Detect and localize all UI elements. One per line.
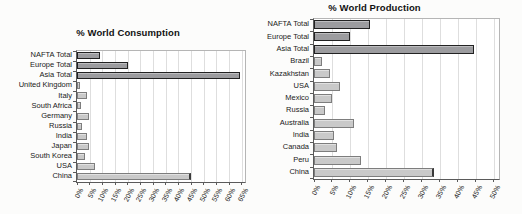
x-tick-label: 10% xyxy=(97,187,110,203)
category-label: Japan xyxy=(52,142,72,150)
x-tick-label: 10% xyxy=(344,184,357,200)
bar-south-korea xyxy=(77,153,85,160)
x-tick-label: 50% xyxy=(198,187,211,203)
category-axis-tick xyxy=(310,105,314,106)
category-row-asia-total: Asia Total xyxy=(0,70,72,80)
bar-russia xyxy=(77,123,82,130)
x-tick-label: 35% xyxy=(160,187,173,203)
gridline xyxy=(476,19,477,179)
x-tick-label: 55% xyxy=(211,187,224,203)
category-row-brazil: Brazil xyxy=(261,55,309,67)
category-label: Italy xyxy=(58,92,72,100)
consumption-x-axis: 0%5%10%15%20%25%30%35%40%45%50%55%60%65% xyxy=(76,183,246,214)
category-row-usa: USA xyxy=(261,79,309,91)
x-axis-tick xyxy=(127,182,128,185)
category-axis-tick xyxy=(73,91,77,92)
gridline xyxy=(440,19,441,179)
category-label: NAFTA Total xyxy=(31,51,72,59)
x-tick-label: 0% xyxy=(310,184,321,196)
gridline xyxy=(422,19,423,179)
category-axis-tick xyxy=(310,130,314,131)
x-tick-label: 15% xyxy=(109,187,122,203)
category-axis-tick xyxy=(73,61,77,62)
category-axis-tick xyxy=(310,19,314,20)
bar-nafta-total xyxy=(314,20,370,29)
x-tick-label: 0% xyxy=(73,187,84,199)
bar-asia-total xyxy=(314,45,474,54)
x-tick-label: 60% xyxy=(223,187,236,203)
category-row-australia: Australia xyxy=(261,116,309,128)
category-label: Australia xyxy=(280,119,309,127)
category-label: Germany xyxy=(41,112,72,120)
x-axis-tick xyxy=(216,182,217,185)
category-axis-tick xyxy=(310,56,314,57)
production-chart-title: % World Production xyxy=(261,2,522,13)
x-tick-label: 25% xyxy=(398,184,411,200)
category-row-russia: Russia xyxy=(0,120,72,130)
bar-italy xyxy=(77,92,87,99)
category-axis-tick xyxy=(310,31,314,32)
x-axis-tick xyxy=(331,179,332,182)
category-row-peru: Peru xyxy=(261,153,309,165)
x-axis-tick xyxy=(241,182,242,185)
x-axis-tick xyxy=(349,179,350,182)
bar-australia xyxy=(314,119,354,128)
bar-asia-total xyxy=(77,72,240,79)
x-tick-label: 25% xyxy=(135,187,148,203)
bar-europe-total xyxy=(314,32,350,41)
x-tick-label: 45% xyxy=(185,187,198,203)
category-label: Asia Total xyxy=(277,45,309,53)
category-row-nafta-total: NAFTA Total xyxy=(0,50,72,60)
category-axis-tick xyxy=(310,142,314,143)
gridline xyxy=(115,51,116,182)
bar-canada xyxy=(314,143,337,152)
bar-kazakhstan xyxy=(314,69,330,78)
x-tick-label: 30% xyxy=(147,187,160,203)
gridline xyxy=(368,19,369,179)
category-label: India xyxy=(293,131,309,139)
x-axis-tick xyxy=(77,182,78,185)
x-axis-tick xyxy=(140,182,141,185)
production-x-axis: 0%5%10%15%20%25%30%35%40%45%50% xyxy=(313,180,500,212)
category-row-mexico: Mexico xyxy=(261,92,309,104)
category-label: South Africa xyxy=(32,102,72,110)
category-label: Europe Total xyxy=(30,61,72,69)
bar-germany xyxy=(77,113,89,120)
category-label: China xyxy=(289,168,309,176)
category-axis-tick xyxy=(73,162,77,163)
bar-usa xyxy=(314,82,340,91)
x-tick-label: 5% xyxy=(328,184,339,196)
gridline xyxy=(140,51,141,182)
gridline xyxy=(128,51,129,182)
x-axis-tick xyxy=(178,182,179,185)
category-label: South Korea xyxy=(30,152,72,160)
gridline xyxy=(242,51,243,182)
category-row-italy: Italy xyxy=(0,90,72,100)
x-tick-label: 35% xyxy=(434,184,447,200)
category-label: Kazakhstan xyxy=(270,70,309,78)
category-row-asia-total: Asia Total xyxy=(261,43,309,55)
x-axis-tick xyxy=(153,182,154,185)
category-row-germany: Germany xyxy=(0,110,72,120)
x-tick-label: 20% xyxy=(380,184,393,200)
category-axis-tick xyxy=(310,154,314,155)
x-tick-label: 40% xyxy=(173,187,186,203)
bar-peru xyxy=(314,156,361,165)
consumption-plot-area xyxy=(76,50,246,183)
category-row-united-kingdom: United Kingdom xyxy=(0,80,72,90)
category-axis-tick xyxy=(73,132,77,133)
bar-south-africa xyxy=(77,102,81,109)
category-label: NAFTA Total xyxy=(268,20,309,28)
category-axis-tick xyxy=(73,152,77,153)
bar-usa xyxy=(77,163,95,170)
x-axis-tick xyxy=(102,182,103,185)
category-axis-tick xyxy=(310,68,314,69)
category-label: USA xyxy=(57,162,72,170)
category-label: China xyxy=(52,172,72,180)
category-row-china: China xyxy=(261,166,309,178)
category-label: India xyxy=(56,132,72,140)
bar-nafta-total xyxy=(77,52,100,59)
category-label: Mexico xyxy=(285,94,309,102)
category-axis-tick xyxy=(73,101,77,102)
x-tick-label: 45% xyxy=(470,184,483,200)
